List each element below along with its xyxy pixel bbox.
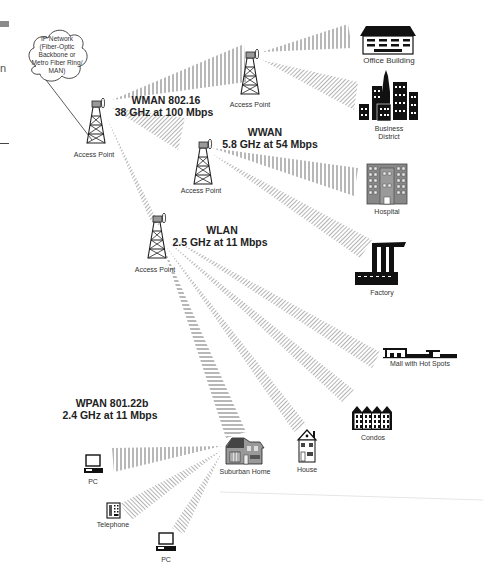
access-point-label: Access Point — [181, 187, 222, 194]
tower-icon — [194, 139, 212, 184]
mall-with-hot-spots: Mall with Hot Spots — [383, 348, 457, 368]
wpan-spec: 2.4 GHz at 11 Mbps — [62, 409, 157, 421]
computer-icon — [156, 533, 176, 551]
wlan-name: WLAN — [206, 224, 238, 236]
business-district-label-2: District — [378, 133, 399, 140]
cloud-line-2: (Fiber-Optic — [40, 43, 76, 51]
mall-label: Mall with Hot Spots — [390, 360, 450, 368]
suburban-home: Suburban Home — [220, 438, 271, 475]
city-skyline-icon — [359, 70, 418, 121]
condos: Condos — [352, 406, 392, 441]
wman-spec: 38 GHz at 100 Mbps — [115, 106, 214, 118]
house-label: House — [297, 466, 317, 473]
wman-name: WMAN 802.16 — [132, 94, 201, 106]
pc-bottom: PC — [156, 533, 176, 563]
wwan-spec: 5.8 GHz at 54 Mbps — [222, 138, 318, 150]
cloud-line-4: Metro Fiber Ring/ — [32, 59, 83, 67]
access-point-label: Access Point — [230, 101, 271, 108]
access-point-label: Access Point — [135, 266, 176, 273]
suburban-home-label: Suburban Home — [220, 468, 271, 475]
tower-icon — [87, 98, 105, 143]
house-icon — [298, 430, 316, 462]
mall-icon — [383, 348, 457, 358]
telephone-icon — [107, 503, 120, 518]
pc-left: PC — [84, 455, 103, 485]
factory-label: Factory — [370, 289, 394, 297]
suburban-home-icon — [226, 438, 264, 464]
house: House — [297, 430, 317, 473]
office-building-label: Office Building — [363, 56, 414, 65]
condos-label: Condos — [361, 434, 386, 441]
access-point-wman: Access Point — [74, 98, 115, 158]
wpan-name: WPAN 801.22b — [76, 397, 149, 409]
wireless-network-diagram: IP Network (Fiber-Optic Backbone or Metr… — [0, 0, 483, 587]
pc-left-label: PC — [88, 478, 98, 485]
ip-network-cloud: IP Network (Fiber-Optic Backbone or Metr… — [29, 30, 92, 140]
access-point-label: Access Point — [74, 151, 115, 158]
computer-icon — [84, 455, 103, 473]
wwan-name: WWAN — [248, 126, 282, 138]
scan-artifact-line — [220, 492, 483, 500]
cloud-line-5: MAN) — [49, 67, 66, 75]
cloud-line-1: IP Network — [41, 35, 74, 42]
hospital-label: Hospital — [374, 208, 400, 216]
pc-bottom-label: PC — [161, 556, 171, 563]
hospital-icon — [367, 164, 407, 204]
condos-icon — [352, 406, 392, 430]
business-district-label-1: Business — [375, 125, 404, 132]
office-building: Office Building — [360, 26, 416, 65]
hospital: Hospital — [367, 164, 407, 216]
telephone-label: Telephone — [97, 521, 129, 529]
cloud-line-3: Backbone or — [38, 51, 76, 58]
office-building-icon — [360, 26, 416, 54]
access-point-wwan: Access Point — [181, 139, 222, 194]
wlan-spec: 2.5 GHz at 11 Mbps — [172, 236, 267, 248]
business-district: Business District — [359, 70, 418, 140]
